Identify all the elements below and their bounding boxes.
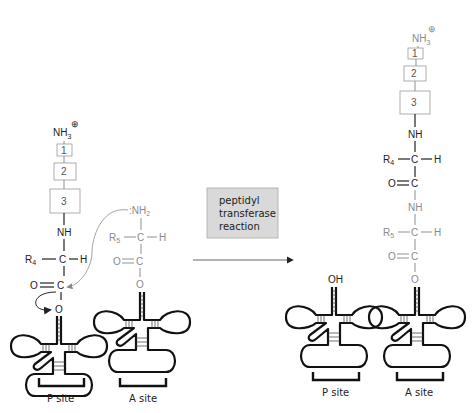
left-aminoacyl-trna: :NH2 R5 C H O C O [68, 205, 190, 372]
h1-label-right: H [434, 154, 441, 165]
alpha-carbon-1-right: C [411, 154, 418, 165]
a-site-bracket-right [397, 372, 443, 380]
trna-p-site-left [11, 316, 107, 396]
residue-label-2: 2 [61, 166, 67, 177]
a-site-label-left: A site [129, 393, 157, 404]
positive-charge-icon-right: ⊕ [428, 24, 436, 34]
right-deacylated-trna: OH [286, 274, 382, 367]
carbonyl-oxygen-aa: O [113, 256, 121, 267]
r4-label: R4 [25, 254, 36, 266]
right-peptidyl-trna: NH3 ⊕ 1 2 3 NH R4 C H O C NH R5 C H O [369, 24, 465, 367]
n-terminus: NH3 [53, 127, 71, 140]
carbonyl-oxygen: O [30, 280, 38, 291]
p-site-label-left: P site [47, 393, 74, 404]
nh2-label-right: NH [408, 202, 422, 213]
nh-label: NH [57, 227, 71, 238]
a-site-bracket-left [120, 378, 166, 386]
right-site-brackets: P site A site [313, 372, 443, 398]
p-site-bracket-right [313, 372, 359, 380]
carbonyl-carbon: C [57, 280, 64, 291]
residue-label-1-right: 1 [412, 48, 418, 59]
h-label: H [80, 254, 87, 265]
p-site-bracket-left [39, 378, 84, 386]
alpha-carbon-aa: C [137, 232, 144, 243]
carbonyl-carbon-aa: C [136, 256, 143, 267]
trna-a-site-right [369, 287, 465, 367]
trna-p-site-right [286, 287, 382, 367]
n-terminus-right: NH3 [412, 33, 430, 46]
p-site-oh-label: OH [328, 274, 343, 285]
trna-a-site-left [94, 292, 190, 372]
residue-label-1: 1 [61, 145, 67, 156]
nh1-label-right: NH [408, 129, 422, 140]
r5-label-right: R5 [383, 227, 394, 239]
a-site-label-right: A site [405, 387, 433, 398]
r5-label: R5 [109, 232, 120, 244]
residue-label-3-right: 3 [411, 97, 417, 108]
reaction-label-line-2: transferase [219, 208, 276, 219]
left-peptidyl-trna: NH3 ⊕ 1 2 3 NH R4 C H O C O [11, 119, 107, 396]
peptidyl-transferase-diagram: NH3 ⊕ 1 2 3 NH R4 C H O C O :NH2 R5 C [0, 0, 475, 413]
h-label-aa: H [159, 232, 166, 243]
carbonyl-o-1-right: O [388, 178, 396, 189]
carbonyl-c-1-right: C [411, 178, 418, 189]
r4-label-right: R4 [383, 154, 394, 166]
reaction-label-line-3: reaction [219, 221, 260, 232]
reaction-indicator: peptidyl transferase reaction [193, 188, 292, 260]
p-site-label-right: P site [322, 387, 349, 398]
residue-label-2-right: 2 [411, 68, 417, 79]
ester-oxygen-right: O [411, 274, 419, 285]
electron-flow-arrow [36, 292, 56, 310]
positive-charge-icon: ⊕ [71, 119, 79, 129]
carbonyl-c-2-right: C [411, 251, 418, 262]
h2-label-right: H [434, 227, 441, 238]
alpha-carbon-2-right: C [411, 227, 418, 238]
ester-oxygen: O [55, 304, 63, 315]
nucleophilic-attack-arrow [68, 210, 128, 287]
left-site-brackets: P site A site [39, 378, 166, 404]
residue-label-3: 3 [61, 196, 67, 207]
carbonyl-o-2-right: O [388, 251, 396, 262]
ester-oxygen-aa: O [136, 279, 144, 290]
reaction-label-line-1: peptidyl [219, 195, 260, 206]
alpha-carbon: C [59, 254, 66, 265]
amine-label: :NH2 [129, 205, 150, 217]
